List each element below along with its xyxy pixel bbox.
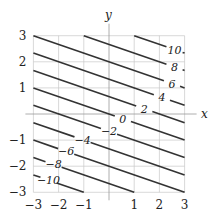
- contour-line: [33, 105, 101, 128]
- y-tick-label: 1: [19, 81, 27, 95]
- contour-line: [33, 36, 164, 81]
- x-tick-label: −2: [50, 198, 68, 212]
- contour-label: −6: [58, 145, 74, 158]
- contour-line: [33, 53, 153, 95]
- y-tick-label: −3: [9, 185, 27, 199]
- y-tick-label: −2: [9, 159, 27, 173]
- contour-line: [33, 123, 74, 137]
- contour-line: [33, 88, 114, 116]
- contour-label: −10: [37, 174, 60, 187]
- y-tick-label: −1: [9, 133, 27, 147]
- contour-line: [33, 140, 58, 149]
- contour-label: 4: [157, 91, 165, 104]
- x-tick-label: −3: [25, 198, 43, 212]
- contour-label: 6: [169, 78, 176, 91]
- contour-label: 8: [171, 61, 178, 74]
- contour-line: [134, 36, 166, 47]
- x-tick-label: 3: [181, 198, 189, 212]
- contour-line: [33, 158, 45, 162]
- contour-line: [183, 52, 185, 53]
- contour-line: [57, 183, 84, 192]
- contour-line: [131, 122, 185, 141]
- contour-line: [74, 154, 184, 192]
- contour-line: [84, 36, 167, 65]
- contour-line: [170, 100, 185, 105]
- y-tick-label: 2: [19, 55, 27, 69]
- contour-label: 2: [140, 103, 148, 116]
- contour-label: −4: [74, 134, 90, 147]
- contour-line: [91, 142, 185, 174]
- y-axis-label: y: [104, 8, 112, 22]
- x-tick-label: 1: [130, 198, 138, 212]
- contour-label: −8: [45, 158, 61, 171]
- contour-line: [183, 70, 185, 71]
- contour-label: 10: [168, 44, 182, 57]
- contour-plot: −10−8−6−4−20246810 −3−2−1123321−1−2−3 x …: [0, 0, 215, 215]
- contour-label: 0: [119, 113, 126, 126]
- contour-line: [117, 134, 185, 157]
- contour-label: −2: [101, 125, 117, 138]
- y-tick-label: 3: [19, 29, 27, 43]
- x-tick-label: −1: [75, 198, 93, 212]
- contour-line: [152, 112, 184, 123]
- x-axis-label: x: [201, 107, 208, 121]
- x-tick-label: 2: [156, 198, 164, 212]
